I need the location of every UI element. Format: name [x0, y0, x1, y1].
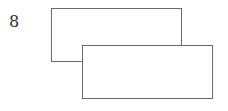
figure-number-label: 8 — [9, 12, 19, 32]
front-rectangle — [82, 45, 213, 99]
